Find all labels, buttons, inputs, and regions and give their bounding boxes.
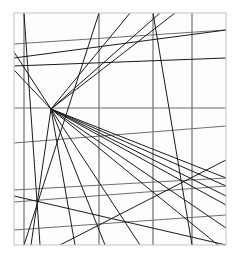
figure-canvas <box>0 0 239 260</box>
perspective-drawing <box>0 0 239 260</box>
